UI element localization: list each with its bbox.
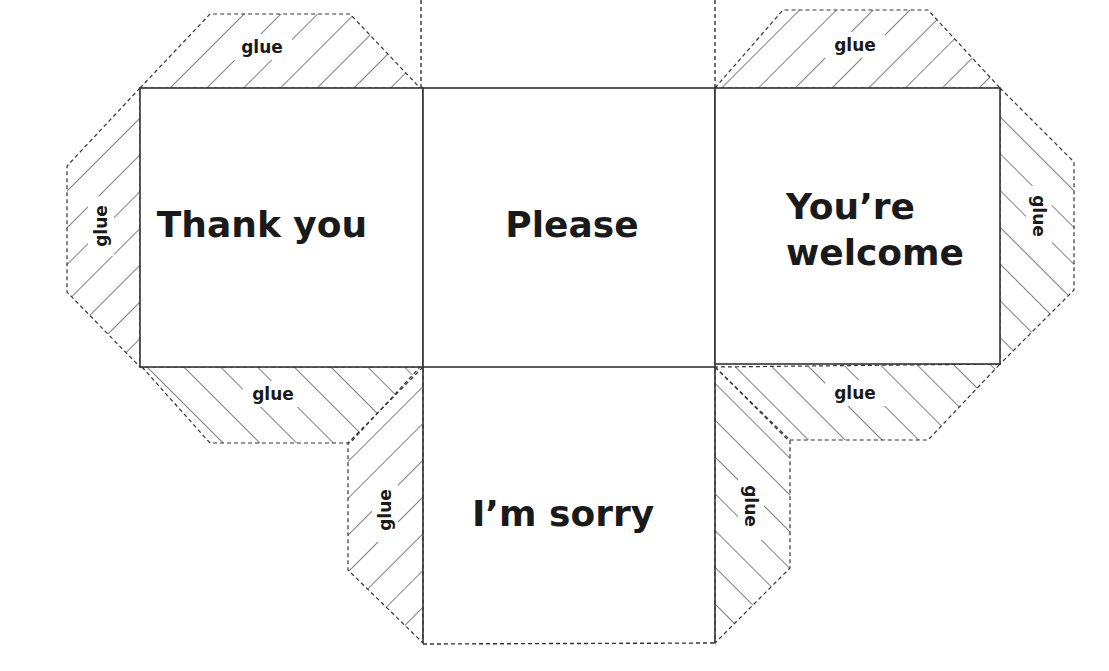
glue-label: glue bbox=[741, 485, 761, 527]
glue-tab-right-face-right: glue bbox=[1000, 88, 1074, 364]
glue-label: glue bbox=[252, 384, 294, 404]
face-left: Thank you bbox=[140, 88, 423, 367]
face-label-thank-you: Thank you bbox=[157, 204, 367, 245]
face-top bbox=[421, 0, 715, 88]
face-label-youre: You’re bbox=[785, 186, 915, 227]
glue-tab-left-face-top: glue bbox=[140, 14, 420, 88]
face-center: Please bbox=[423, 88, 715, 367]
cube-net-diagram: glue glue glue glue glue glue glue glue bbox=[0, 0, 1109, 671]
glue-label: glue bbox=[91, 205, 111, 247]
glue-label: glue bbox=[1029, 195, 1049, 237]
glue-tab-left-face-left: glue bbox=[67, 88, 140, 367]
face-right: You’re welcome bbox=[715, 88, 1000, 364]
face-bottom: I’m sorry bbox=[423, 367, 715, 644]
glue-label: glue bbox=[241, 37, 283, 57]
glue-tab-right-face-top: glue bbox=[715, 10, 1000, 88]
face-label-im-sorry: I’m sorry bbox=[472, 493, 654, 534]
face-label-please: Please bbox=[505, 204, 638, 245]
glue-label: glue bbox=[834, 35, 876, 55]
glue-label: glue bbox=[834, 383, 876, 403]
glue-label: glue bbox=[375, 489, 395, 531]
face-label-welcome: welcome bbox=[786, 232, 964, 273]
